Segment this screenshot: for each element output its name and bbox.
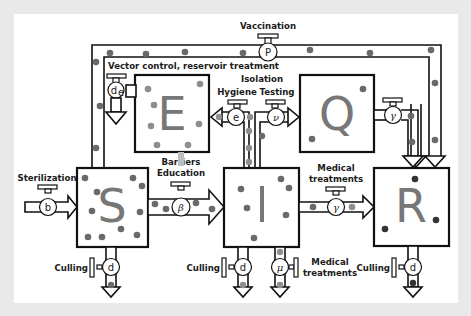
transmission-symbol: β: [177, 202, 184, 213]
isolation-label: Isolation: [241, 74, 283, 84]
vaccination-valve[interactable]: P: [258, 34, 278, 61]
compartment-s: S: [77, 168, 148, 247]
compartment-s-letter: S: [97, 179, 126, 233]
compartment-diagram: P Vaccination Vector control, reservoir …: [0, 0, 471, 316]
culling-s-label: Culling: [54, 263, 88, 273]
sterilization-label: Sterilization: [17, 173, 76, 183]
compartment-e: E: [135, 75, 209, 152]
sterilization-symbol: b: [45, 202, 51, 213]
hygiene-symbol: e: [233, 112, 239, 123]
compartment-e-letter: E: [157, 87, 186, 141]
hygiene-label: Hygiene: [217, 87, 257, 97]
education-label: Education: [157, 168, 205, 178]
culling-r-label: Culling: [356, 263, 390, 273]
culling-r-symbol: d: [410, 262, 416, 273]
culling-s-symbol: d: [108, 262, 114, 273]
testing-symbol: ν: [273, 112, 279, 123]
compartment-q-letter: Q: [319, 87, 355, 141]
svg-text:e: e: [118, 87, 124, 98]
vector-control-label: Vector control, reservoir treatment: [108, 61, 279, 71]
disease-mortality-symbol: μ: [277, 262, 284, 273]
medical-treatments-mortality-label-1: Medical: [311, 257, 348, 267]
e-to-i-flow: [178, 152, 184, 166]
testing-label: Testing: [260, 87, 295, 97]
q-recovery-symbol: γ: [390, 110, 396, 121]
i-recovery-symbol: γ: [333, 202, 339, 213]
compartment-r: R: [374, 168, 449, 246]
culling-i-symbol: d: [240, 262, 246, 273]
vector-control-valve-symbol: d: [111, 85, 117, 96]
compartment-i-letter: [260, 186, 264, 222]
vaccination-valve-symbol: P: [265, 47, 271, 58]
vaccination-label: Vaccination: [240, 21, 296, 31]
compartment-r-letter: R: [395, 179, 427, 233]
compartment-q: Q: [300, 75, 374, 152]
medical-treatments-label-1: Medical: [317, 163, 354, 173]
culling-i-label: Culling: [186, 263, 220, 273]
medical-treatments-label-2: treatments: [309, 174, 363, 184]
medical-treatments-mortality-label-2: treatments: [303, 268, 357, 278]
